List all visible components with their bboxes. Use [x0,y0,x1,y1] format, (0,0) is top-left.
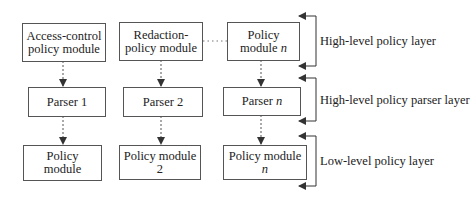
box-label: Access-control [27,30,102,43]
box-label: Parser 2 [143,96,184,109]
low-level-policy-module-n: Policy modulen [223,145,307,180]
layer-label-parser: High-level policy parser layer [320,93,470,108]
box-label: module [44,163,82,176]
box-label: policy module [125,42,197,55]
parser-n: Parser n [223,87,301,116]
parser-1: Parser 1 [28,87,106,117]
bracket-parser-layer [300,78,316,121]
box-label: 2 [124,163,197,176]
box-label: Redaction- [125,29,197,42]
box-label: Parser 1 [47,96,88,109]
box-label: module n [240,42,287,55]
low-level-policy-module-1: Policymodule [23,145,102,181]
layer-label-high-level-policy: High-level policy layer [320,34,436,49]
box-label: Parser n [242,95,283,108]
access-control-policy-module: Access-controlpolicy module [22,23,106,62]
redaction-policy-module: Redaction-policy module [119,22,203,61]
low-level-policy-module-2: Policy module2 [119,145,201,180]
policy-module-n: Policymodule n [227,22,300,61]
layer-label-low-level-policy: Low-level policy layer [320,154,434,169]
box-label: Policy module [124,150,197,163]
box-label: n [229,163,302,176]
parser-2: Parser 2 [123,87,203,117]
box-label: policy module [27,43,102,56]
bracket-high-level-policy-layer [300,16,316,66]
